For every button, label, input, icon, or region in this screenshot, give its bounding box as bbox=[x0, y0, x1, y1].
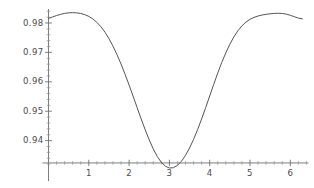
x-axis-tick-label: 2 bbox=[119, 169, 139, 178]
x-axis-group bbox=[42, 160, 308, 166]
chart-figure: 0.980.970.960.950.94 123456 bbox=[0, 0, 314, 188]
y-axis-tick-label: 0.97 bbox=[4, 48, 44, 57]
y-axis-tick-label: 0.98 bbox=[4, 19, 44, 28]
y-axis-tick-label: 0.94 bbox=[4, 136, 44, 145]
x-axis-tick-label: 4 bbox=[200, 169, 220, 178]
y-axis-tick-label: 0.95 bbox=[4, 107, 44, 116]
x-axis-tick-label: 3 bbox=[159, 169, 179, 178]
data-series-curve bbox=[49, 13, 303, 168]
y-axis-tick-label: 0.96 bbox=[4, 77, 44, 86]
x-axis-tick-label: 6 bbox=[280, 169, 300, 178]
y-axis-group bbox=[45, 9, 52, 181]
x-axis-tick-label: 1 bbox=[79, 169, 99, 178]
x-axis-tick-label: 5 bbox=[240, 169, 260, 178]
chart-canvas bbox=[0, 0, 314, 188]
